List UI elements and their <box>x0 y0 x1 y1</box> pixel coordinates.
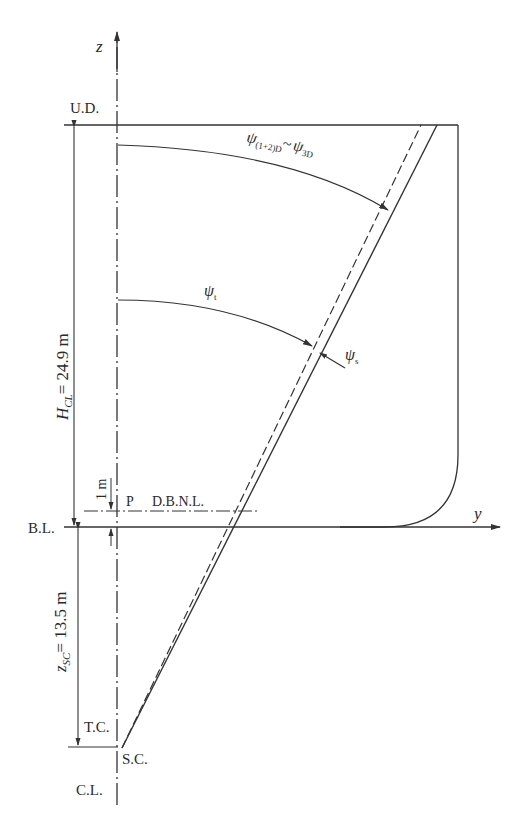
hull-outline <box>64 125 458 527</box>
psi-s-label: ψs <box>345 346 359 366</box>
hull-side-bilge <box>340 125 458 527</box>
psi-t-arc <box>118 300 312 346</box>
z-sc-dimension-label: zSC= 13.5 m <box>51 591 72 673</box>
dbnl-label: D.B.N.L. <box>152 494 204 509</box>
y-axis-label: y <box>472 504 482 523</box>
ship-section-diagram: z U.D. y B.L. P D.B.N.L. HCL= 24.9 m 1 m… <box>0 0 532 827</box>
psi-upper-label: ψ(1+2)D~ψ3D <box>245 128 316 160</box>
z-sc-dimension <box>68 529 118 747</box>
psi-s-arrow <box>320 353 345 368</box>
point-p-label: P <box>126 494 134 509</box>
upper-deck-label: U.D. <box>70 100 99 116</box>
rotated-section-solid <box>122 125 437 748</box>
rotated-section-dashed <box>122 125 421 748</box>
offset-dimension-label: 1 m <box>94 479 109 501</box>
psi-upper-arc <box>118 145 388 210</box>
shear-center-label: S.C. <box>122 751 148 767</box>
base-line-label: B.L. <box>28 520 55 536</box>
center-line-label: C.L. <box>76 782 103 798</box>
z-axis-label: z <box>95 37 103 56</box>
psi-t-label: ψt <box>204 282 217 302</box>
tower-center-label: T.C. <box>84 719 110 735</box>
h-cl-dimension-label: HCL= 24.9 m <box>53 333 74 421</box>
